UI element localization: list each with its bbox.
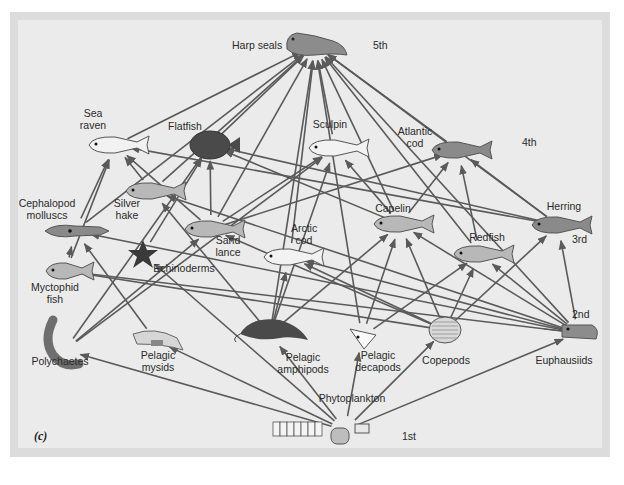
decapod-icon: [350, 329, 376, 349]
fish-icon: [454, 245, 514, 263]
label-arctic_cod: cod: [296, 234, 313, 246]
fish-icon: [309, 139, 369, 157]
arrow-pelagic_amphipods-to-capelin: [281, 234, 388, 325]
shrimp-icon: [133, 331, 183, 350]
label-harp_seals: Harp seals: [232, 39, 282, 51]
label-echinoderms: Echinoderms: [153, 262, 214, 274]
arrow-euphausiids-to-redfish: [492, 264, 567, 324]
label-cephalopod: molluscs: [27, 209, 68, 221]
squid-icon: [45, 225, 109, 237]
label-cephalopod: Cephalopod: [19, 197, 76, 209]
trophic-level-2nd: 2nd: [572, 308, 590, 320]
label-capelin: Capelin: [375, 202, 411, 214]
label-polychaetes: Polychaetes: [31, 355, 88, 367]
label-pelagic_mysids: mysids: [142, 361, 175, 373]
label-pelagic_amphipods: amphipods: [277, 363, 328, 375]
label-silver_hake: Silver: [114, 197, 141, 209]
phytoplankton-icon: [273, 422, 369, 444]
label-phytoplankton: Phytoplankton: [319, 392, 386, 404]
fish-icon: [89, 136, 149, 154]
label-myctophid: Myctophid: [31, 281, 79, 293]
label-pelagic_mysids: Pelagic: [141, 349, 175, 361]
organism-icons: [45, 33, 597, 444]
arrow-copepods-to-sand_lance: [226, 235, 432, 324]
label-pelagic_decapods: decapods: [355, 361, 401, 373]
label-pelagic_decapods: Pelagic: [361, 349, 395, 361]
seal-icon: [287, 33, 347, 55]
label-sand_lance: lance: [215, 246, 240, 258]
arrow-copepods-to-arctic_cod: [304, 264, 432, 324]
arrow-arctic_cod-to-harp_seals: [292, 61, 313, 243]
trophic-level-4th: 4th: [522, 136, 537, 148]
fish-icon: [432, 141, 492, 159]
label-pelagic_amphipods: Pelagic: [286, 351, 320, 363]
arrow-euphausiids-to-arctic_cod: [305, 261, 564, 329]
fish-icon: [46, 262, 94, 280]
label-atlantic_cod: Atlantic: [398, 125, 432, 137]
label-sea_raven: Sea: [84, 107, 103, 119]
arrow-sand_lance-to-flatfish: [210, 161, 211, 215]
label-atlantic_cod: cod: [407, 137, 424, 149]
label-copepods: Copepods: [422, 354, 470, 366]
arrow-capelin-to-flatfish: [225, 151, 387, 218]
label-sand_lance: Sand: [216, 234, 241, 246]
panel-label: (c): [34, 429, 47, 443]
label-herring: Herring: [547, 200, 582, 212]
arrow-phytoplankton-to-echinoderms: [155, 265, 334, 421]
organism-labels: Harp sealsSearavenFlatfishSculpinAtlanti…: [19, 39, 593, 404]
label-arctic_cod: Arctic: [291, 222, 317, 234]
arrow-sand_lance-to-harp_seals: [218, 59, 307, 217]
trophic-level-3rd: 3rd: [572, 233, 587, 245]
arrow-sea_raven-to-harp_seals: [128, 52, 301, 139]
arrow-flatfish-to-harp_seals: [220, 56, 303, 135]
amphipod-icon: [235, 319, 308, 342]
food-web-diagram: Harp sealsSearavenFlatfishSculpinAtlanti…: [0, 0, 624, 485]
fish-icon: [532, 216, 592, 234]
label-myctophid: fish: [47, 293, 64, 305]
label-flatfish: Flatfish: [168, 120, 202, 132]
arrow-cephalopod-to-sea_raven: [81, 160, 108, 219]
trophic-level-1st: 1st: [402, 430, 416, 442]
label-redfish: Redfish: [469, 231, 505, 243]
label-silver_hake: hake: [116, 209, 139, 221]
fish-icon: [374, 215, 434, 233]
arrow-herring-to-sea_raven: [131, 148, 544, 223]
copepod-icon: [429, 317, 461, 343]
label-sculpin: Sculpin: [313, 118, 348, 130]
trophic-level-5th: 5th: [373, 39, 388, 51]
label-sea_raven: raven: [80, 119, 106, 131]
arrow-silver_hake-to-harp_seals: [162, 56, 303, 182]
label-euphausiids: Euphausiids: [535, 354, 592, 366]
